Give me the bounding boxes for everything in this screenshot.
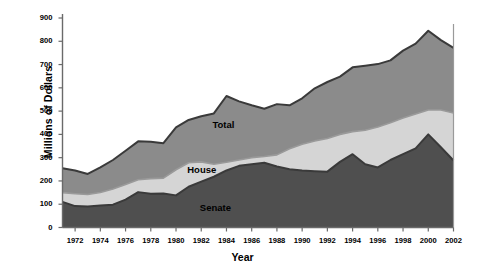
y-tick-label-900: 900 bbox=[13, 13, 53, 22]
x-tick-label-2002: 2002 bbox=[434, 236, 474, 245]
series-label-total: Total bbox=[212, 119, 234, 130]
area-bands bbox=[63, 31, 454, 228]
y-tick-label-100: 100 bbox=[13, 199, 53, 208]
chart-figure: 0100200300400500600700800900 19721974197… bbox=[0, 0, 485, 273]
y-axis-title: Millions of Dollars bbox=[42, 42, 54, 182]
x-axis-title: Year bbox=[0, 251, 485, 263]
stacked-area-plot bbox=[0, 0, 485, 273]
series-label-house: House bbox=[187, 164, 216, 175]
series-label-senate: Senate bbox=[200, 202, 231, 213]
y-tick-label-0: 0 bbox=[13, 223, 53, 232]
